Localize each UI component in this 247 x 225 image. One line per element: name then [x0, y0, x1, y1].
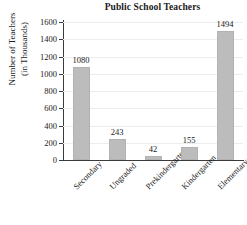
y-axis-tick-mark — [59, 91, 63, 92]
y-axis-tick-label: 1200 — [40, 52, 57, 61]
y-axis-tick-mark — [59, 57, 63, 58]
bar — [217, 31, 234, 160]
bar-value-label: 42 — [149, 145, 158, 154]
bar-value-label: 1494 — [217, 20, 234, 29]
bar — [181, 147, 198, 160]
y-axis-tick-mark — [59, 74, 63, 75]
y-axis-tick-mark — [59, 39, 63, 40]
y-axis-tick-label: 1000 — [40, 70, 57, 79]
y-axis-tick-label: 600 — [44, 104, 57, 113]
bar-value-label: 155 — [183, 136, 196, 145]
y-axis-title-line-2: (in Thousands) — [19, 0, 31, 114]
bar-value-label: 243 — [111, 128, 124, 137]
y-axis-tick-mark — [59, 108, 63, 109]
y-axis-tick-label: 1600 — [40, 18, 57, 27]
y-axis-tick-mark — [59, 143, 63, 144]
y-axis-tick-mark — [59, 22, 63, 23]
bar — [73, 67, 90, 160]
y-axis-tick-label: 400 — [44, 121, 57, 130]
y-axis-tick-label: 200 — [44, 139, 57, 148]
bar-chart: Public School Teachers Number of Teacher… — [0, 0, 247, 225]
y-axis-tick-label: 1400 — [40, 35, 57, 44]
y-axis-title-line-1: Number of Teachers — [7, 0, 19, 114]
x-axis-category-label: Secondary — [72, 160, 103, 191]
x-axis-category-label: Elementary — [216, 157, 247, 191]
y-axis-tick-mark — [59, 160, 63, 161]
y-axis-title: Number of Teachers (in Thousands) — [7, 0, 33, 114]
y-axis-tick-label: 0 — [53, 156, 57, 165]
y-axis-tick-mark — [59, 126, 63, 127]
bar — [109, 139, 126, 160]
bar-value-label: 1080 — [73, 56, 90, 65]
y-axis-tick-label: 800 — [44, 87, 57, 96]
chart-title: Public School Teachers — [60, 2, 245, 12]
plot-area: 020040060080010001200140016001080Seconda… — [63, 22, 243, 160]
x-axis-category-label: Ungraded — [108, 161, 138, 191]
bar — [145, 156, 162, 160]
